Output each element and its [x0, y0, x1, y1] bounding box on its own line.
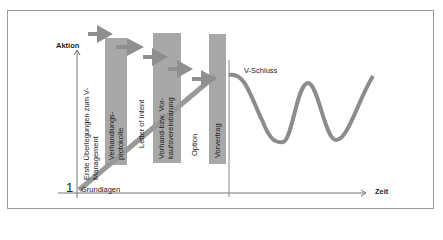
arrow-2-tail — [116, 45, 128, 49]
arrow-1-tail — [88, 32, 98, 36]
post-closing-wave — [229, 75, 373, 142]
arrow-5-tail — [192, 77, 202, 81]
phase-label-option: Option — [190, 134, 199, 156]
step-arrows — [88, 25, 217, 88]
y-axis-label: Aktion — [56, 41, 79, 50]
phase-label-vorhandvereinbarung: Vorhand-bzw. Vor- kaufsvereinbarung — [157, 97, 175, 159]
phase-label-letter-of-intent: Letter of Intent — [137, 100, 146, 148]
phase-label-vorvertrag: Vorvertrag — [213, 123, 222, 158]
x-axis-label: Zeit — [375, 187, 388, 196]
arrow-4-head-icon — [177, 60, 193, 78]
arrow-5-head-icon — [201, 70, 217, 88]
arrow-4-tail — [168, 67, 178, 71]
arrow-1-head-icon — [97, 25, 113, 43]
arrow-3-head-icon — [152, 48, 168, 66]
milestone-label: V-Schluss — [244, 66, 277, 75]
phase-label-erste-ueberlegungen: Erste Überlegungen zum V- Management — [82, 88, 100, 180]
origin-number: 1 — [66, 180, 73, 195]
arrow-2-head-icon — [127, 38, 144, 56]
origin-label: Grundlagen — [81, 185, 120, 194]
phase-label-verhandlungsprotokolle: Verhandlungs- protokolle — [107, 112, 125, 160]
arrow-3-tail — [143, 55, 153, 59]
